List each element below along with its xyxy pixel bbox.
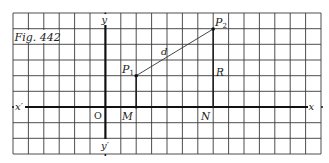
ordinate-label-r: R [215,66,224,78]
coordinate-diagram: Fig. 442 y y′ x′ x O d R P1 P2 M N [0,0,329,163]
x-axis-label: x [309,101,315,112]
distance-label: d [161,46,167,57]
x-neg-axis-label: x′ [15,101,24,112]
distance-segment [136,29,213,76]
m-label: M [121,110,133,122]
x-neg-axis-end-dot [12,106,14,108]
origin-label: O [94,110,102,121]
point-p1 [134,74,138,78]
point-m [135,106,138,109]
figure-caption: Fig. 442 [14,31,61,44]
x-axis-end-dot [321,106,323,108]
y-axis-label: y [101,14,108,25]
p1-label: P1 [121,63,134,77]
y-neg-axis-end-dot [104,154,106,156]
y-neg-axis-label: y′ [100,140,110,151]
p2-label: P2 [214,16,227,30]
n-label: N [200,110,211,122]
